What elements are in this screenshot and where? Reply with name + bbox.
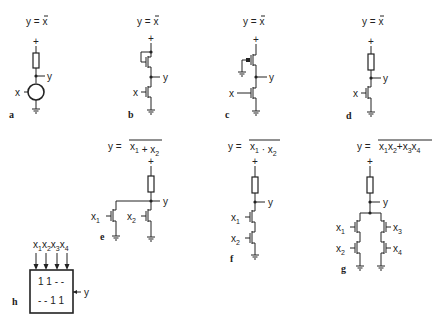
label-a: a [9, 109, 14, 120]
svg-text:y: y [383, 197, 388, 208]
circuit-b: y = x + y x b [128, 16, 168, 120]
ground-icon [32, 105, 40, 113]
svg-text:c: c [225, 109, 230, 120]
ground-icon [147, 106, 155, 114]
ground-icon [356, 262, 364, 270]
circuit-a: y = x + y x a [9, 16, 52, 120]
svg-text:y: y [84, 287, 89, 298]
resistor-icon [367, 177, 373, 193]
ground-icon [367, 108, 375, 116]
resistor-icon [148, 176, 154, 192]
svg-text:d: d [346, 110, 352, 121]
svg-text:y: y [163, 196, 168, 207]
equation-g: y = x1x2+x3x4 [357, 141, 421, 154]
output-y-a: y [47, 71, 52, 82]
svg-text:y: y [268, 197, 273, 208]
input-x-a: x [15, 87, 20, 98]
block-inputs: x1x2x3x4 [33, 239, 69, 252]
circuit-d: y = x + y x d [346, 16, 388, 121]
equation-d: y = x [362, 16, 383, 27]
svg-text:h: h [12, 296, 18, 307]
svg-text:+: + [252, 156, 258, 167]
svg-text:y: y [269, 72, 274, 83]
svg-text:+: + [367, 156, 373, 167]
svg-text:x4: x4 [393, 243, 402, 256]
svg-text:+: + [148, 156, 154, 167]
circuit-h: x1x2x3x4 1 1 - - - - 1 1 y h [12, 239, 89, 313]
svg-text:x3: x3 [393, 222, 402, 235]
ground-icon [252, 107, 260, 115]
circuit-e: y = x1 + x2 + y x1 x2 e [91, 140, 168, 242]
ground-icon [147, 233, 155, 241]
svg-text:x: x [229, 88, 234, 99]
block-row-2: - - 1 1 [38, 295, 65, 306]
circuit-g: y = x1x2+x3x4 + y x1 x2 [336, 140, 432, 274]
equation-e: y = x1 + x2 [108, 141, 159, 157]
circuit-f: y = x1 · x2 + y x1 x2 f [228, 140, 280, 264]
equation-a: y = x [26, 16, 47, 27]
resistor-icon [368, 54, 374, 70]
circuit-c: y = x + y x c [225, 16, 274, 120]
supply-plus: + [33, 36, 39, 47]
svg-text:x2: x2 [231, 233, 240, 246]
ground-icon [251, 251, 259, 259]
svg-text:b: b [128, 109, 134, 120]
ground-icon [112, 232, 120, 240]
svg-text:e: e [100, 231, 105, 242]
equation-f: y = x1 · x2 [228, 141, 277, 157]
svg-text:x1: x1 [91, 211, 100, 224]
svg-text:x1: x1 [231, 212, 240, 225]
resistor-icon [252, 177, 258, 193]
svg-text:y: y [383, 73, 388, 84]
resistor-icon [33, 53, 39, 68]
svg-text:x: x [353, 88, 358, 99]
svg-text:x2: x2 [336, 243, 345, 256]
svg-text:x2: x2 [127, 211, 136, 224]
svg-text:x: x [133, 87, 138, 98]
equation-b: y = x [137, 16, 158, 27]
ground-icon [377, 262, 385, 270]
svg-text:+: + [148, 33, 154, 44]
svg-text:+: + [368, 36, 374, 47]
svg-text:x1: x1 [336, 222, 345, 235]
block-row-1: 1 1 - - [38, 276, 64, 287]
equation-c: y = x [243, 16, 264, 27]
svg-text:g: g [341, 263, 346, 274]
ground-icon [238, 68, 246, 76]
switch-circle-icon [28, 84, 44, 100]
svg-text:f: f [230, 253, 234, 264]
svg-text:y: y [163, 72, 168, 83]
svg-text:+: + [253, 34, 259, 45]
